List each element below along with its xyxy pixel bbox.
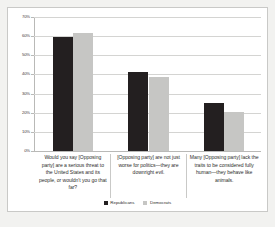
chart-legend: RepublicansDemocrats xyxy=(8,201,267,205)
bar-democrats[interactable] xyxy=(149,77,169,151)
y-axis-tick-label: 20% xyxy=(22,111,30,115)
bar-republicans[interactable] xyxy=(53,37,73,151)
plot-area: 0%10%20%30%40%50%60%70% xyxy=(34,17,261,151)
category-label: Many [Opposing party] lack the traits to… xyxy=(186,154,262,200)
bar-group xyxy=(35,17,111,151)
bar-group xyxy=(111,17,187,151)
legend-swatch-icon xyxy=(104,201,108,205)
y-axis-tick-label: 30% xyxy=(22,91,30,95)
bars-layer xyxy=(35,17,261,151)
chart-page: 0%10%20%30%40%50%60%70% Would you say [O… xyxy=(0,0,275,227)
bar-group xyxy=(186,17,262,151)
bar-republicans[interactable] xyxy=(204,103,224,151)
y-axis-tick-label: 50% xyxy=(22,53,30,57)
chart-frame: 0%10%20%30%40%50%60%70% Would you say [O… xyxy=(7,7,268,212)
y-axis-tick-label: 10% xyxy=(22,130,30,134)
legend-item-democrats[interactable]: Democrats xyxy=(143,201,171,205)
category-labels: Would you say [Opposing party] are a ser… xyxy=(35,154,262,200)
y-axis-tick-label: 0% xyxy=(24,149,30,153)
legend-swatch-icon xyxy=(143,201,147,205)
bar-republicans[interactable] xyxy=(128,72,148,151)
category-label: Would you say [Opposing party] are a ser… xyxy=(35,154,111,200)
category-label: [Opposing party] are not just worse for … xyxy=(111,154,187,200)
legend-label: Republicans xyxy=(110,201,134,205)
y-axis-tick-label: 70% xyxy=(22,15,30,19)
gridline xyxy=(34,151,261,152)
bar-democrats[interactable] xyxy=(224,112,244,151)
bar-democrats[interactable] xyxy=(73,33,93,151)
y-axis-tick-label: 60% xyxy=(22,34,30,38)
legend-label: Democrats xyxy=(150,201,171,205)
legend-item-republicans[interactable]: Republicans xyxy=(104,201,135,205)
y-axis-tick-label: 40% xyxy=(22,72,30,76)
